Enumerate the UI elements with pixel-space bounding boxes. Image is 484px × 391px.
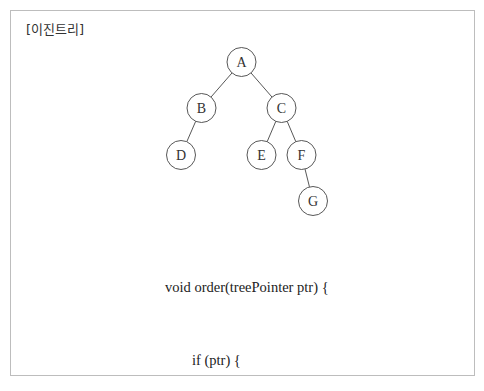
tree-edge-A-B (211, 73, 232, 97)
tree-edge-A-C (251, 73, 272, 97)
code-block: void order(treePointer ptr) { if (ptr) {… (165, 227, 329, 391)
svg-text:B: B (197, 101, 206, 116)
tree-node-D: D (167, 141, 196, 170)
tree-node-F: F (287, 141, 316, 170)
code-line-1: void order(treePointer ptr) { (165, 275, 329, 299)
code-line-2: if (ptr) { (165, 348, 329, 372)
tree-edge-C-E (267, 121, 276, 141)
svg-text:G: G (308, 194, 318, 209)
tree-edge-F-G (305, 169, 309, 187)
svg-text:E: E (257, 148, 266, 163)
tree-node-A: A (227, 48, 256, 77)
tree-node-C: C (267, 94, 296, 123)
tree-node-B: B (187, 94, 216, 123)
tree-edge-B-D (187, 121, 196, 141)
tree-node-E: E (247, 141, 276, 170)
tree-edge-C-F (287, 121, 296, 141)
svg-text:A: A (236, 55, 247, 70)
tree-node-G: G (299, 187, 328, 216)
svg-text:C: C (277, 101, 286, 116)
svg-text:F: F (298, 148, 306, 163)
svg-text:D: D (176, 148, 186, 163)
